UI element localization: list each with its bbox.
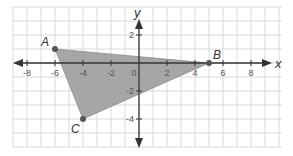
x-tick-label: -4	[79, 68, 87, 78]
x-tick-label: 8	[248, 68, 253, 78]
y-tick-label: 2	[129, 30, 134, 40]
point-label-a: A	[40, 35, 49, 49]
point-b	[206, 60, 212, 66]
x-axis-right-arrow-icon	[262, 59, 272, 67]
x-tick-label: -6	[51, 68, 59, 78]
x-tick-label: 2	[164, 68, 169, 78]
x-tick-label: 6	[220, 68, 225, 78]
x-axis-label: x	[274, 56, 282, 71]
x-tick-label: -2	[107, 68, 115, 78]
point-label-b: B	[213, 48, 221, 62]
x-tick-label: 4	[192, 68, 197, 78]
x-tick-label: 0	[131, 68, 136, 78]
y-tick-label: -4	[126, 114, 134, 124]
point-a	[52, 46, 58, 52]
coordinate-plane: -8-6-4-2024682-2-4 x y ABC	[0, 0, 293, 156]
y-tick-label: -2	[126, 86, 134, 96]
x-axis-left-arrow-icon	[13, 59, 23, 67]
point-c	[80, 116, 86, 122]
triangle-abc	[55, 49, 209, 119]
point-label-c: C	[71, 122, 80, 136]
x-tick-label: -8	[23, 68, 31, 78]
